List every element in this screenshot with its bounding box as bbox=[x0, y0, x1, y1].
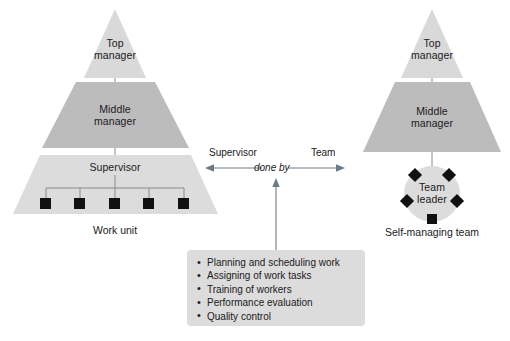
relation-arrow-right-head bbox=[336, 164, 345, 171]
team-leader-label-line1: Team bbox=[419, 181, 445, 193]
worker-node bbox=[109, 198, 120, 209]
relation-right-label: Team bbox=[311, 147, 335, 158]
worker-node bbox=[143, 198, 154, 209]
left-tier-middle-label-line1: Middle bbox=[99, 103, 131, 115]
relation-left-label: Supervisor bbox=[209, 147, 257, 158]
left-tier-middle-label-line2: manager bbox=[94, 115, 136, 127]
diagram-canvas: Top manager Middle manager Supervisor Wo… bbox=[0, 0, 510, 341]
left-tier-top-label: Top manager bbox=[75, 37, 155, 61]
relation-arrow-left-head bbox=[205, 164, 214, 171]
left-tier-top-label-line1: Top bbox=[106, 37, 123, 49]
task-list-item: Quality control bbox=[207, 310, 365, 323]
right-tier-middle-label: Middle manager bbox=[392, 105, 472, 129]
worker-node bbox=[178, 198, 189, 209]
task-list-item: Assigning of work tasks bbox=[207, 269, 365, 282]
left-tier-top-label-line2: manager bbox=[94, 49, 136, 61]
right-tier-middle-label-line1: Middle bbox=[416, 105, 448, 117]
task-list: Planning and scheduling work Assigning o… bbox=[187, 250, 365, 323]
right-structure-caption: Self-managing team bbox=[372, 226, 492, 238]
team-leader-label-line2: leader bbox=[417, 193, 447, 205]
task-box-arrow-head bbox=[272, 178, 279, 187]
worker-node bbox=[40, 198, 51, 209]
right-tier-middle-label-line2: manager bbox=[411, 117, 453, 129]
task-list-item: Performance evaluation bbox=[207, 296, 365, 309]
left-tier-middle-label: Middle manager bbox=[75, 103, 155, 127]
task-list-item: Planning and scheduling work bbox=[207, 256, 365, 269]
relation-middle-label: done by bbox=[254, 162, 290, 173]
team-member-node bbox=[427, 214, 437, 224]
right-tier-top-label-line1: Top bbox=[423, 37, 440, 49]
worker-node bbox=[74, 198, 85, 209]
right-tier-top-label-line2: manager bbox=[411, 49, 453, 61]
right-tier-top-label: Top manager bbox=[392, 37, 472, 61]
left-tier-base-label: Supervisor bbox=[75, 161, 155, 174]
left-structure-caption: Work unit bbox=[75, 224, 155, 236]
task-list-item: Training of workers bbox=[207, 283, 365, 296]
task-list-box: Planning and scheduling work Assigning o… bbox=[187, 250, 365, 326]
team-leader-label: Team leader bbox=[392, 181, 472, 205]
